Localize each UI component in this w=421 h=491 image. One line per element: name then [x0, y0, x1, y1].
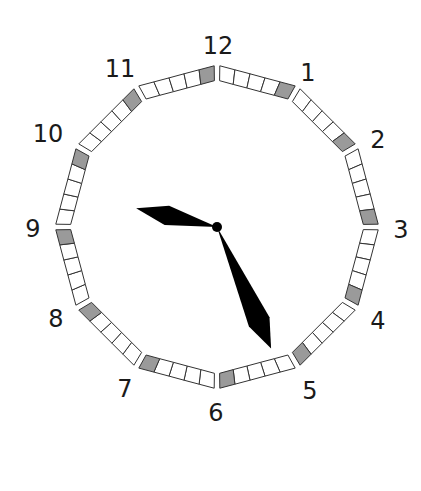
minute-square	[220, 66, 235, 85]
center-pivot	[212, 222, 222, 232]
hour-label-9: 9	[25, 215, 40, 243]
clock-hands	[136, 206, 271, 349]
hour-label-11: 11	[105, 55, 136, 83]
minute-square	[184, 70, 201, 88]
minute-square	[56, 209, 75, 224]
hour-marker-square	[360, 209, 379, 224]
minute-square	[360, 230, 379, 245]
hour-label-8: 8	[48, 305, 63, 333]
hour-marker-square	[199, 66, 214, 85]
hour-label-2: 2	[370, 126, 385, 154]
hour-label-6: 6	[208, 399, 223, 427]
hour-label-12: 12	[203, 32, 234, 60]
minute-square	[233, 366, 250, 384]
hour-label-7: 7	[117, 375, 132, 403]
hour-label-3: 3	[393, 216, 408, 244]
hour-label-1: 1	[300, 59, 315, 87]
analog-clock-diagram: 121234567891011	[0, 0, 421, 491]
hour-hand	[136, 206, 217, 227]
hour-marker-square	[220, 370, 235, 389]
hour-label-4: 4	[370, 307, 385, 335]
minute-square	[60, 243, 78, 260]
minute-square	[356, 194, 374, 211]
minute-square	[199, 370, 214, 389]
hour-marker-square	[56, 230, 75, 245]
minute-hand	[217, 227, 271, 349]
hour-label-5: 5	[302, 377, 317, 405]
hour-label-10: 10	[33, 120, 64, 148]
